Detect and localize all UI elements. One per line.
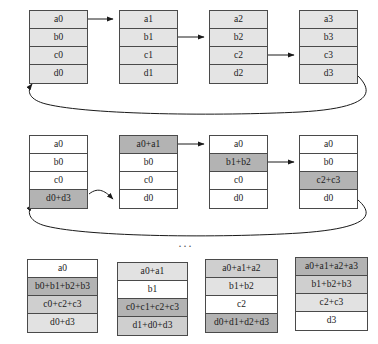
cell-b: b0+b1+b2+b3 <box>28 278 97 296</box>
stage2-curved-arrow-d <box>89 190 113 199</box>
cell-b: b1+b2+b3 <box>296 276 367 294</box>
cell-a: a0+a1+a2+a3 <box>296 258 367 276</box>
cell-a: a0 <box>300 136 357 154</box>
cell-d: d1 <box>120 65 177 83</box>
stage1-node-2: a2 b2 c2 d2 <box>209 10 268 84</box>
cell-a: a0+a1 <box>120 136 177 154</box>
stage1-node-3: a3 b3 c3 d3 <box>299 10 358 84</box>
cell-a: a0+a1+a2 <box>206 260 277 278</box>
stage3-node-0: a0 b0+b1+b2+b3 c0+c2+c3 d0+d3 <box>27 259 98 333</box>
cell-c: c2 <box>210 47 267 65</box>
cell-d: d3 <box>296 312 367 330</box>
cell-b: b0 <box>30 29 87 47</box>
cell-d: d1+d0+d3 <box>118 317 187 335</box>
cell-c: c0 <box>30 47 87 65</box>
stage3-node-3: a0+a1+a2+a3 b1+b2+b3 c2+c3 d3 <box>295 257 368 331</box>
cell-c: c2+c3 <box>296 294 367 312</box>
stage3-node-1: a0+a1 b1 c0+c1+c2+c3 d1+d0+d3 <box>117 262 188 336</box>
cell-a: a0 <box>30 11 87 29</box>
cell-b: b2 <box>210 29 267 47</box>
stage3-node-2: a0+a1+a2 b1+b2 c2 d0+d1+d2+d3 <box>205 259 278 333</box>
cell-b: b1+b2 <box>210 154 267 172</box>
cell-c: c0+c1+c2+c3 <box>118 299 187 317</box>
cell-a: a2 <box>210 11 267 29</box>
cell-d: d3 <box>300 65 357 83</box>
cell-d: d0+d3 <box>30 190 87 208</box>
cell-c: c2 <box>206 296 277 314</box>
cell-a: a0 <box>210 136 267 154</box>
stage2-node-2: a0 b1+b2 c0 d0 <box>209 135 268 209</box>
cell-c: c1 <box>120 47 177 65</box>
cell-b: b1 <box>120 29 177 47</box>
cell-c: c0 <box>120 172 177 190</box>
stage-separator-ellipsis: ... <box>166 236 206 251</box>
cell-a: a3 <box>300 11 357 29</box>
cell-d: d0 <box>300 190 357 208</box>
stage1-node-0: a0 b0 c0 d0 <box>29 10 88 84</box>
cell-c: c0+c2+c3 <box>28 296 97 314</box>
stage2-node-3: a0 b0 c2+c3 d0 <box>299 135 358 209</box>
cell-b: b0 <box>120 154 177 172</box>
cell-a: a0 <box>28 260 97 278</box>
cell-b: b0 <box>30 154 87 172</box>
cell-d: d0 <box>120 190 177 208</box>
cell-a: a1 <box>120 11 177 29</box>
stage1-node-1: a1 b1 c1 d1 <box>119 10 178 84</box>
cell-c: c3 <box>300 47 357 65</box>
stage2-node-1: a0+a1 b0 c0 d0 <box>119 135 178 209</box>
cell-c: c0 <box>30 172 87 190</box>
stage2-node-0: a0 b0 c0 d0+d3 <box>29 135 88 209</box>
diagram-canvas: a0 b0 c0 d0 a1 b1 c1 d1 a2 b2 c2 d2 a3 b… <box>0 0 378 344</box>
cell-d: d2 <box>210 65 267 83</box>
cell-b: b3 <box>300 29 357 47</box>
cell-d: d0+d3 <box>28 314 97 332</box>
cell-d: d0 <box>30 65 87 83</box>
cell-c: c0 <box>210 172 267 190</box>
cell-c: c2+c3 <box>300 172 357 190</box>
cell-b: b0 <box>300 154 357 172</box>
cell-a: a0 <box>30 136 87 154</box>
cell-b: b1 <box>118 281 187 299</box>
cell-d: d0 <box>210 190 267 208</box>
cell-a: a0+a1 <box>118 263 187 281</box>
cell-d: d0+d1+d2+d3 <box>206 314 277 332</box>
cell-b: b1+b2 <box>206 278 277 296</box>
